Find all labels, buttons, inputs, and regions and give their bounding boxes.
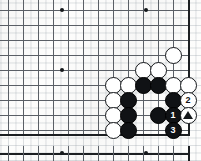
board-line-horizontal bbox=[0, 40, 189, 41]
stone-white bbox=[180, 77, 197, 94]
lower-board-line-vertical bbox=[98, 146, 99, 161]
stone-white bbox=[105, 92, 122, 109]
lower-board-line-vertical bbox=[113, 146, 114, 161]
board-line-vertical bbox=[23, 0, 24, 136]
board-line-vertical bbox=[83, 0, 84, 136]
stone-black bbox=[120, 92, 137, 109]
lower-board-line-vertical bbox=[53, 146, 54, 161]
lower-board-line-vertical bbox=[173, 146, 174, 161]
stone-white bbox=[120, 77, 137, 94]
stone-black bbox=[135, 77, 152, 94]
star-point bbox=[60, 8, 64, 12]
lower-board-edge-top bbox=[0, 153, 190, 155]
move-number-label: 2 bbox=[181, 93, 196, 108]
board-line-vertical bbox=[68, 0, 69, 136]
stone-black bbox=[150, 77, 167, 94]
board-line-horizontal bbox=[0, 25, 189, 26]
lower-star-point bbox=[60, 151, 64, 155]
move-number-label: 3 bbox=[166, 123, 181, 138]
lower-board-line-vertical bbox=[23, 146, 24, 161]
stone-black-move-3: 3 bbox=[165, 122, 182, 139]
board-edge-bottom bbox=[0, 134, 190, 136]
move-number-label: 1 bbox=[166, 108, 181, 123]
triangle-marker-icon bbox=[183, 111, 193, 119]
stone-black bbox=[150, 107, 167, 124]
stone-black bbox=[165, 92, 182, 109]
star-point bbox=[144, 8, 148, 12]
board-line-vertical bbox=[38, 0, 39, 136]
stone-white bbox=[165, 47, 182, 64]
board-line-horizontal bbox=[0, 55, 189, 56]
board-line-vertical bbox=[8, 0, 9, 136]
stone-white bbox=[150, 62, 167, 79]
stone-white-move-2: 2 bbox=[180, 92, 197, 109]
lower-board-line-vertical bbox=[38, 146, 39, 161]
stone-black-move-1: 1 bbox=[165, 107, 182, 124]
stone-white bbox=[105, 122, 122, 139]
stone-black bbox=[120, 122, 137, 139]
go-diagram-scene: 213 bbox=[0, 0, 201, 161]
board-line-vertical bbox=[53, 0, 54, 136]
stone-white bbox=[105, 77, 122, 94]
lower-board-line-vertical bbox=[128, 146, 129, 161]
board-line-horizontal bbox=[0, 10, 189, 11]
lower-board-line-vertical bbox=[188, 146, 190, 161]
stone-black bbox=[120, 107, 137, 124]
stone-white bbox=[165, 77, 182, 94]
board-line-horizontal bbox=[0, 100, 189, 101]
lower-board-line-vertical bbox=[83, 146, 84, 161]
board-line-horizontal bbox=[0, 130, 189, 131]
stone-white-marked bbox=[180, 107, 197, 124]
lower-board-line-vertical bbox=[8, 146, 9, 161]
lower-star-point bbox=[144, 151, 148, 155]
stone-white bbox=[135, 62, 152, 79]
star-point bbox=[60, 68, 64, 72]
lower-board-line-vertical bbox=[158, 146, 159, 161]
board-line-vertical bbox=[98, 0, 99, 136]
lower-board-line-vertical bbox=[68, 146, 69, 161]
stone-white bbox=[105, 107, 122, 124]
